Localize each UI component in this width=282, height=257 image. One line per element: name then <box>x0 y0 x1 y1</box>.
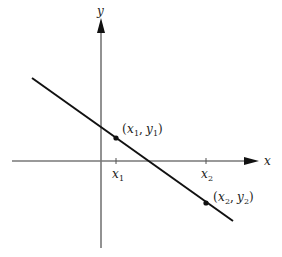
svg-text:y: y <box>236 190 244 204</box>
svg-text:1: 1 <box>119 174 124 183</box>
x-axis-arrow-icon <box>244 157 259 165</box>
point-1 <box>113 135 118 140</box>
y-axis-arrow-icon <box>97 18 105 33</box>
svg-text:x: x <box>218 190 225 204</box>
svg-text:y: y <box>145 122 153 136</box>
svg-text:): ) <box>158 122 163 136</box>
svg-text:): ) <box>249 190 254 204</box>
tick-label-x2: x 2 <box>201 167 213 183</box>
svg-text:x: x <box>201 167 208 181</box>
y-axis-label: y <box>96 4 104 18</box>
svg-text:(: ( <box>213 190 218 204</box>
tick-label-x1: x 1 <box>112 167 124 183</box>
svg-text:,: , <box>139 122 143 136</box>
coordinate-diagram: y x x 1 x 2 ( x 1 , y 1 ) ( x 2 , y 2 ) <box>0 0 282 257</box>
svg-text:,: , <box>230 190 234 204</box>
x-axis-label: x <box>264 154 271 168</box>
line-through-points <box>32 78 233 221</box>
point-1-label: ( x 1 , y 1 ) <box>122 122 163 138</box>
svg-text:x: x <box>127 122 134 136</box>
point-2-label: ( x 2 , y 2 ) <box>213 190 254 206</box>
svg-text:2: 2 <box>208 174 213 183</box>
svg-text:x: x <box>112 167 119 181</box>
point-2 <box>203 200 208 205</box>
svg-text:(: ( <box>122 122 127 136</box>
